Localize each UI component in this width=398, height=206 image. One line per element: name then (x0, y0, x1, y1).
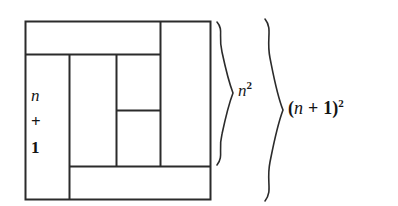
outer-brace-icon (265, 19, 283, 201)
outer-brace-label: (n+1)2 (288, 99, 344, 117)
outer-brace-plus: + (303, 98, 323, 118)
column-label-line-2: + (31, 109, 67, 135)
outer-brace-exponent: 2 (338, 97, 344, 109)
inner-brace-icon (217, 22, 233, 165)
inner-brace-label: n2 (238, 82, 252, 99)
inner-brace-exponent: 2 (247, 79, 253, 91)
outer-brace-var: n (294, 98, 303, 118)
column-label-line-1: n (31, 83, 67, 109)
inner-brace-base: n (238, 81, 247, 100)
column-label-line-3: 1 (31, 135, 67, 161)
outer-brace-one: 1 (323, 98, 332, 118)
column-side-label: n + 1 (31, 83, 67, 161)
